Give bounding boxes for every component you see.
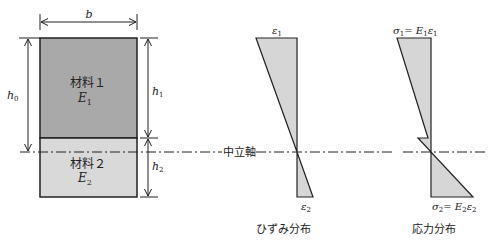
h1-label: h1 (152, 85, 164, 99)
h0-label: h0 (7, 89, 19, 103)
material1-name: 材料１ (70, 76, 106, 90)
stress-upper-region (397, 38, 431, 152)
stress-title: 応力分布 (412, 222, 456, 236)
h2-label: h2 (152, 160, 164, 174)
stress-lower-region (431, 152, 473, 197)
neutral-axis-label: 中立軸 (223, 145, 256, 159)
strain-upper-region (256, 38, 297, 152)
h1-h2-dimension: h1 h2 (140, 38, 164, 197)
stress-top-label: σ1= E1ε1 (393, 25, 437, 38)
strain-lower-region (297, 152, 313, 197)
material2-name: 材料２ (70, 157, 106, 171)
cross-section: 材料１ E1 材料２ E2 (40, 38, 137, 197)
strain-distribution: ε1 ε2 ひずみ分布 (256, 25, 314, 236)
h0-dimension: h0 (7, 38, 40, 151)
stress-bottom-label: σ2= E2ε2 (432, 201, 476, 214)
composite-beam-diagram: 材料１ E1 材料２ E2 b h0 h1 h2 (0, 0, 497, 240)
stress-distribution: σ1= E1ε1 σ2= E2ε2 応力分布 (393, 25, 476, 236)
strain-title: ひずみ分布 (256, 223, 311, 236)
strain-bottom-label: ε2 (301, 201, 311, 214)
width-dimension: b (40, 8, 137, 30)
width-label: b (85, 8, 92, 21)
strain-top-label: ε1 (272, 25, 282, 38)
